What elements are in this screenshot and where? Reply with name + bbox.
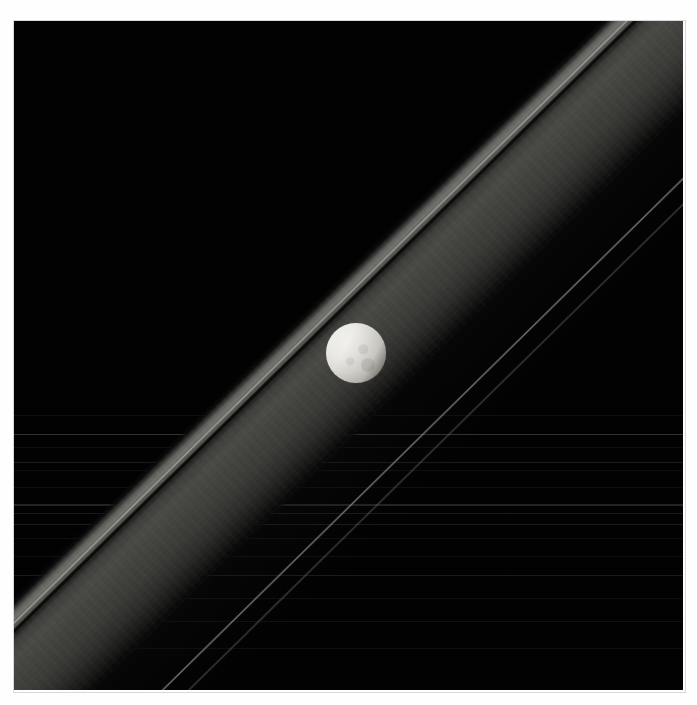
ring-lane-11 bbox=[14, 575, 683, 576]
ring-lane-13 bbox=[14, 621, 683, 622]
ring-lane-4 bbox=[14, 470, 683, 471]
moon-terminator-shading bbox=[326, 323, 386, 383]
ring-lane-6 bbox=[14, 504, 683, 506]
ring-lane-1 bbox=[14, 434, 683, 435]
ring-lane-5 bbox=[14, 487, 683, 488]
ring-lane-2 bbox=[14, 447, 683, 448]
ring-lane-9 bbox=[14, 538, 683, 539]
ring-lane-8 bbox=[14, 524, 683, 525]
ring-lane-7 bbox=[14, 513, 683, 514]
astronomy-photo-plate bbox=[14, 21, 683, 690]
page-root: icy moon above planetary ring plane bbox=[0, 0, 697, 705]
ring-lane-14 bbox=[14, 648, 683, 649]
ring-lane-12 bbox=[14, 598, 683, 599]
ring-lane-3 bbox=[14, 462, 683, 463]
ring-lane-10 bbox=[14, 556, 683, 557]
moon bbox=[326, 323, 386, 383]
ring-lane-0 bbox=[14, 415, 683, 416]
